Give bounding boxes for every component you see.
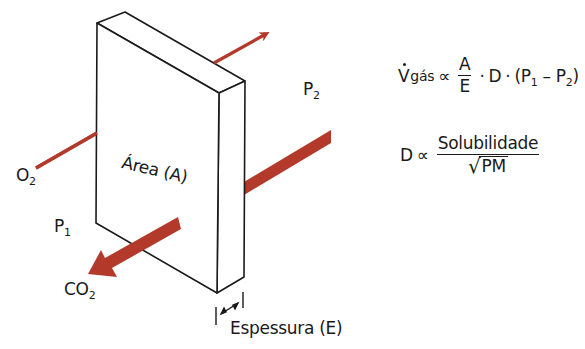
- p1-text: P: [54, 216, 64, 236]
- p2-subscript: 2: [313, 89, 320, 102]
- o2-label: O2: [16, 167, 36, 184]
- o2-exit-arrow: [214, 34, 266, 63]
- diffusion-constant: D: [489, 66, 502, 86]
- fick-law-equation: V gás ∝ A E · D · (P1 – P2): [398, 56, 579, 96]
- gas-subscript: gás: [410, 68, 434, 84]
- co2-subscript: 2: [89, 289, 96, 302]
- area-over-thickness-fraction: A E: [458, 56, 471, 96]
- p1-subscript: 1: [64, 226, 71, 239]
- sqrt-pm-denominator: √ PM: [468, 155, 508, 176]
- co2-label: CO2: [64, 281, 95, 298]
- multiply-dot: ·: [505, 66, 510, 86]
- co2-text: CO: [64, 279, 89, 299]
- solubility-numerator: Solubilidade: [437, 135, 540, 155]
- thickness-label: Espessura (E): [230, 320, 342, 337]
- diffusion-constant-equation: D ∝ Solubilidade √ PM: [400, 135, 543, 176]
- multiply-dot: ·: [479, 66, 484, 86]
- proportional-symbol: ∝: [438, 66, 450, 86]
- p2-text: P: [303, 79, 313, 99]
- co2-entry-band: [244, 130, 331, 195]
- o2-subscript: 2: [29, 175, 36, 188]
- o2-text: O: [16, 165, 29, 185]
- v-dot-symbol: V: [398, 66, 409, 86]
- proportional-symbol: ∝: [417, 145, 429, 165]
- slab-side-face: [217, 81, 245, 293]
- o2-line-front: [36, 133, 97, 168]
- molecular-weight: PM: [479, 156, 507, 176]
- d-symbol: D: [400, 145, 413, 165]
- p1-label: P1: [54, 218, 71, 235]
- pressure-difference: (P1 – P2): [514, 66, 578, 86]
- p2-label: P2: [303, 81, 320, 98]
- solubility-fraction: Solubilidade √ PM: [437, 135, 540, 176]
- fraction-denominator: E: [460, 76, 470, 96]
- fraction-numerator: A: [458, 56, 471, 76]
